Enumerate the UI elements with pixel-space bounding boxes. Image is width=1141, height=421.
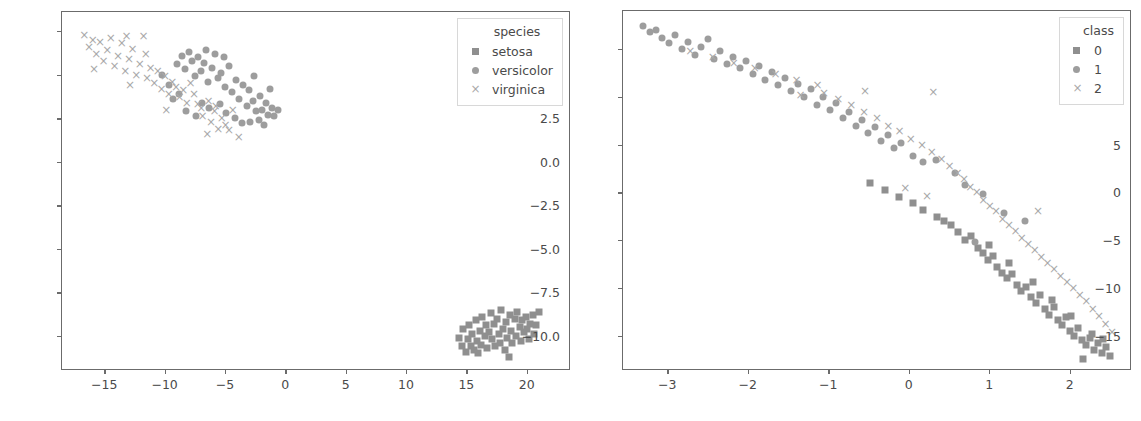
data-point-2 — [750, 64, 759, 73]
data-point-setosa — [483, 345, 490, 352]
x-tick-mark — [466, 369, 467, 374]
left-legend[interactable]: species setosa versicolor virginica — [457, 18, 563, 106]
data-point-2 — [922, 192, 931, 201]
data-point-2 — [792, 75, 801, 84]
data-point-1 — [897, 139, 904, 146]
data-point-0 — [920, 206, 927, 213]
x-tick-label: 10 — [398, 377, 414, 392]
data-point-setosa — [514, 308, 521, 315]
right-legend[interactable]: class 0 1 2 — [1059, 17, 1124, 105]
data-point-virginica — [202, 129, 211, 138]
data-point-virginica — [89, 65, 98, 74]
legend-item-class-2[interactable]: 2 — [1067, 79, 1114, 98]
y-tick-label: −10.0 — [522, 328, 560, 343]
data-point-2 — [860, 87, 869, 96]
data-point-versicolor — [220, 54, 227, 61]
data-point-setosa — [465, 322, 472, 329]
data-point-1 — [672, 31, 679, 38]
legend-label-virginica: virginica — [492, 82, 545, 97]
data-point-1 — [813, 101, 820, 108]
data-point-versicolor — [250, 73, 257, 80]
data-point-versicolor — [205, 78, 212, 85]
data-point-0 — [1008, 271, 1015, 278]
legend-label-class-1: 1 — [1094, 62, 1102, 77]
data-point-virginica — [125, 81, 134, 90]
y-tick-mark — [618, 288, 623, 289]
data-point-1 — [884, 132, 891, 139]
data-point-2 — [883, 121, 892, 130]
data-point-2 — [872, 113, 881, 122]
square-marker-icon — [465, 48, 485, 55]
data-point-virginica — [161, 105, 170, 114]
data-point-virginica — [135, 60, 144, 69]
data-point-1 — [762, 76, 769, 83]
data-point-1 — [971, 239, 978, 246]
data-point-virginica — [211, 102, 220, 111]
data-point-0 — [896, 194, 903, 201]
data-point-versicolor — [225, 62, 232, 69]
data-point-0 — [1090, 346, 1097, 353]
data-point-0 — [881, 187, 888, 194]
data-point-versicolor — [197, 68, 204, 75]
data-point-0 — [909, 199, 916, 206]
data-point-0 — [933, 214, 940, 221]
data-point-0 — [1102, 344, 1109, 351]
legend-item-virginica[interactable]: virginica — [465, 80, 553, 99]
data-point-virginica — [106, 34, 115, 43]
square-marker-icon — [1067, 47, 1087, 54]
data-point-1 — [909, 153, 916, 160]
data-point-setosa — [509, 339, 516, 346]
y-tick-mark — [57, 31, 62, 32]
data-point-0 — [954, 229, 961, 236]
y-tick-mark — [618, 49, 623, 50]
left-plot-axes[interactable]: 7.55.02.50.0−2.5−5.0−7.5−10.0−15−10−5051… — [61, 11, 570, 370]
data-point-0 — [1079, 355, 1086, 362]
right-plot-axes[interactable]: 151050−5−10−15−3−2−1012 class 0 1 2 — [622, 10, 1131, 370]
data-point-1 — [865, 130, 872, 137]
data-point-setosa — [493, 315, 500, 322]
cross-marker-icon — [465, 85, 485, 94]
data-point-2 — [833, 94, 842, 103]
data-point-1 — [665, 40, 672, 47]
data-point-0 — [1023, 283, 1030, 290]
y-tick-mark — [618, 97, 623, 98]
data-point-setosa — [511, 315, 518, 322]
x-tick-label: −5 — [216, 377, 234, 392]
legend-item-setosa[interactable]: setosa — [465, 42, 553, 61]
y-tick-mark — [57, 162, 62, 163]
data-point-0 — [1032, 300, 1039, 307]
legend-item-versicolor[interactable]: versicolor — [465, 61, 553, 80]
data-point-versicolor — [266, 85, 273, 92]
legend-item-class-0[interactable]: 0 — [1067, 41, 1114, 60]
y-tick-label: 0.0 — [540, 154, 560, 169]
data-point-setosa — [479, 313, 486, 320]
data-point-setosa — [503, 318, 510, 325]
x-tick-mark — [225, 369, 226, 374]
data-point-setosa — [522, 313, 529, 320]
data-point-virginica — [120, 67, 129, 76]
data-point-setosa — [535, 308, 542, 315]
data-point-0 — [1036, 292, 1043, 299]
cross-marker-icon — [1067, 84, 1087, 93]
data-point-versicolor — [247, 118, 254, 125]
data-point-versicolor — [275, 106, 282, 113]
right-plot-area — [623, 11, 1130, 369]
data-point-0 — [1006, 260, 1013, 267]
data-point-1 — [704, 35, 711, 42]
data-point-versicolor — [238, 120, 245, 127]
data-point-virginica — [99, 56, 108, 65]
data-point-virginica — [228, 105, 237, 114]
data-point-2 — [859, 108, 868, 117]
data-point-versicolor — [182, 66, 189, 73]
data-point-setosa — [505, 353, 512, 360]
y-tick-mark — [618, 145, 623, 146]
x-tick-label: −3 — [658, 377, 676, 392]
x-tick-mark — [165, 369, 166, 374]
x-tick-mark — [828, 369, 829, 374]
y-tick-mark — [57, 336, 62, 337]
data-point-setosa — [498, 306, 505, 313]
data-point-0 — [1050, 303, 1057, 310]
legend-item-class-1[interactable]: 1 — [1067, 60, 1114, 79]
data-point-2 — [796, 91, 805, 100]
data-point-versicolor — [202, 47, 209, 54]
